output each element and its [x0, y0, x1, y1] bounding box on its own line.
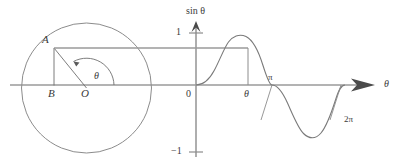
sine-circle-figure: A B O θ sin θ 1 −1 0 θ π 2π θ — [0, 0, 402, 168]
label-point-a: A — [42, 34, 49, 45]
label-x-tick-zero: 0 — [186, 89, 191, 99]
angle-arc-arrowhead — [74, 62, 80, 67]
figure-canvas — [0, 0, 402, 168]
label-x-axis-theta: θ — [384, 79, 389, 89]
label-x-tick-theta: θ — [244, 89, 249, 99]
label-y-tick-minus-one: −1 — [171, 146, 182, 156]
pi-leader-line — [261, 85, 272, 120]
label-y-tick-one: 1 — [176, 27, 181, 37]
label-x-tick-two-pi: 2π — [344, 115, 353, 124]
label-y-axis-sin-theta: sin θ — [186, 6, 205, 16]
two-pi-leader-line — [330, 85, 341, 120]
sine-curve — [196, 35, 345, 138]
radius-oa-line — [54, 48, 87, 88]
label-point-b: B — [48, 88, 55, 99]
label-origin-o: O — [81, 88, 89, 99]
label-angle-theta-circle: θ — [94, 71, 99, 81]
label-x-tick-pi: π — [268, 73, 273, 82]
